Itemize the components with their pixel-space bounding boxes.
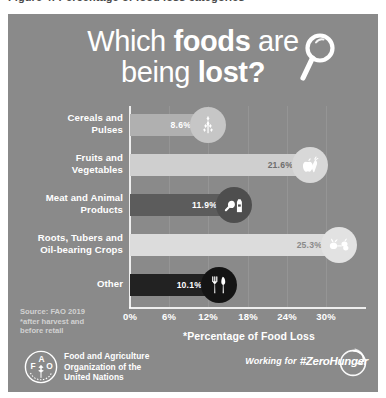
badge-fork-knife <box>201 267 237 303</box>
source-line-2: *after harvest and <box>20 317 125 327</box>
chart-row-fruits: Fruits and Vegetables 21.6% <box>8 148 378 188</box>
x-tick-18: 18% <box>228 311 268 322</box>
bar-chart: Cereals and Pulses 8.6% <box>8 106 378 311</box>
category-label-other: Other <box>12 278 123 290</box>
bar-value-roots: 25.3% <box>297 240 322 250</box>
chart-row-cereals: Cereals and Pulses 8.6% <box>8 108 378 148</box>
title-word-being: being <box>121 56 198 88</box>
fao-organization-name: Food and Agriculture Organization of the… <box>64 351 149 383</box>
bar-value-meat: 11.9% <box>192 200 217 210</box>
zero-hunger-prefix: Working for <box>245 356 296 366</box>
x-tick-6: 6% <box>149 311 189 322</box>
fao-name-line-2: Organization of the <box>64 362 149 373</box>
fao-name-line-3: United Nations <box>64 372 149 383</box>
bar-cereals: 8.6% <box>130 114 198 136</box>
zerohunger-swirl-icon <box>336 344 370 378</box>
chart-row-meat: Meat and Animal Products 11.9% <box>8 188 378 228</box>
badge-fruit-vegetable <box>292 147 328 183</box>
source-line-1: Source: FAO 2019 <box>20 307 125 317</box>
infographic-page: Figure 4: Percentage of food loss catego… <box>0 0 386 398</box>
x-tick-30: 30% <box>306 311 346 322</box>
badge-roots-tubers <box>321 227 357 263</box>
badge-meat-dairy <box>216 187 252 223</box>
bar-other: 10.1% <box>130 274 209 296</box>
svg-text:A: A <box>38 354 44 364</box>
x-tick-12: 12% <box>188 311 228 322</box>
fao-name-line-1: Food and Agriculture <box>64 351 149 362</box>
x-axis-caption: *Percentage of Food Loss <box>129 330 369 342</box>
category-label-meat: Meat and Animal Products <box>12 192 123 215</box>
zero-hunger-lockup: Working for #ZeroHunger <box>245 355 368 367</box>
magnifying-glass-icon <box>296 32 342 84</box>
bar-value-other: 10.1% <box>177 280 202 290</box>
clipped-heading-strip: Figure 4: Percentage of food loss catego… <box>0 0 386 14</box>
badge-wheat <box>190 107 226 143</box>
poster-title: Which foods are being lost? <box>8 26 378 88</box>
wheat-icon <box>197 114 219 136</box>
clipped-heading-text: Figure 4: Percentage of food loss catego… <box>8 0 245 3</box>
x-tick-24: 24% <box>267 311 307 322</box>
source-note: Source: FAO 2019 *after harvest and befo… <box>20 307 125 336</box>
bar-meat: 11.9% <box>130 194 224 216</box>
chart-row-roots: Roots, Tubers and Oil-bearing Crops 25.3… <box>8 228 378 268</box>
title-word-which: Which <box>87 25 173 57</box>
poster-body: Which foods are being lost? <box>8 14 378 392</box>
chart-row-other: Other 10.1% <box>8 268 378 308</box>
roots-tubers-icon <box>327 234 351 256</box>
poster-footer: F A O Food and Agriculture Organization … <box>8 344 378 392</box>
bar-value-fruits: 21.6% <box>268 160 293 170</box>
source-line-3: before retail <box>20 326 125 336</box>
title-word-lost: lost? <box>198 56 265 88</box>
title-word-foods: foods <box>173 25 250 57</box>
fork-knife-icon <box>209 274 229 296</box>
meat-dairy-icon <box>223 194 245 216</box>
svg-text:O: O <box>46 361 53 371</box>
category-label-cereals: Cereals and Pulses <box>12 112 123 135</box>
category-label-roots: Roots, Tubers and Oil-bearing Crops <box>12 232 123 255</box>
svg-text:F: F <box>31 361 36 371</box>
fao-emblem-icon: F A O <box>24 350 58 384</box>
bar-fruits: 21.6% <box>130 154 300 176</box>
fruit-vegetable-icon <box>299 154 321 176</box>
category-label-fruits: Fruits and Vegetables <box>12 152 123 175</box>
bar-value-cereals: 8.6% <box>171 120 191 130</box>
title-word-are: are <box>250 25 298 57</box>
bar-roots: 25.3% <box>130 234 329 256</box>
